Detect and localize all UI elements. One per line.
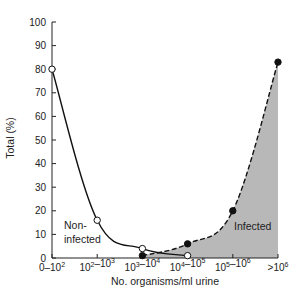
y-tick-label: 30 [35, 182, 47, 193]
chart: 0102030405060708090100 0–102102–103103–1… [0, 0, 304, 298]
y-tick-label: 70 [35, 87, 47, 98]
open-circle-marker [184, 252, 190, 258]
x-tick-label: 105–106 [215, 257, 251, 273]
filled-circle-marker [230, 208, 236, 214]
annotation-noninfected-line1: Non- [64, 219, 87, 231]
filled-circle-marker [275, 59, 281, 65]
x-tick-label: >106 [268, 261, 289, 273]
x-axis-title: No. organisms/ml urine [111, 275, 219, 287]
open-circle-marker [139, 245, 145, 251]
filled-circle-marker [139, 252, 145, 258]
y-axis-title: Total (%) [4, 117, 16, 158]
y-tick-label: 10 [35, 229, 47, 240]
open-circle-marker [49, 66, 55, 72]
y-tick-label: 50 [35, 135, 47, 146]
y-tick-label: 40 [35, 158, 47, 169]
x-tick-label: 102–103 [79, 257, 115, 273]
y-tick-label: 80 [35, 64, 47, 75]
filled-circle-marker [184, 241, 190, 247]
y-tick-label: 100 [29, 17, 46, 28]
y-tick-label: 60 [35, 111, 47, 122]
x-tick-label: 103–104 [125, 257, 161, 273]
y-tick-label: 90 [35, 40, 47, 51]
annotation-noninfected-line2: infected [64, 233, 101, 245]
x-tick-label: 0–102 [39, 261, 65, 273]
open-circle-marker [94, 217, 100, 223]
y-tick-label: 20 [35, 205, 47, 216]
x-tick-label: 104–105 [170, 257, 206, 273]
annotation-infected: Infected [234, 220, 272, 232]
